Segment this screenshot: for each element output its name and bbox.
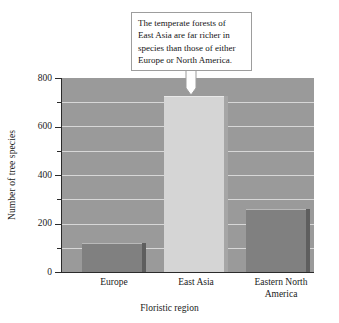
y-tick-label-400: 400 [12, 171, 52, 181]
x-category-label-east-asia: East Asia [164, 277, 228, 289]
bar-east-asia-top-highlight [164, 96, 224, 97]
bar-eastern-north-america-face [246, 209, 306, 272]
y-tick-400 [55, 175, 62, 176]
y-tick-label-600: 600 [12, 122, 52, 132]
bar-eastern-north-america-top-highlight [246, 209, 306, 210]
callout-line-2: East Asia are far richer in [138, 29, 246, 41]
bar-east-asia-face [164, 96, 224, 272]
y-tick-label-200: 200 [12, 219, 52, 229]
y-tick-500 [57, 151, 62, 152]
x-axis-line [61, 272, 314, 273]
x-axis-title: Floristic region [0, 303, 339, 313]
bar-europe [82, 243, 146, 272]
y-tick-0 [55, 272, 62, 273]
callout-line-1: The temperate forests of [138, 17, 246, 29]
bar-eastern-north-america-shadow [306, 209, 310, 272]
x-category-label-eastern-north-america-line2: America [240, 289, 322, 301]
bar-east-asia-shadow [224, 96, 228, 272]
bar-europe-shadow [142, 243, 146, 272]
x-category-label-eastern-north-america: Eastern North America [240, 277, 322, 300]
callout-line-3: species than those of either [138, 42, 246, 54]
y-tick-label-0: 0 [12, 268, 52, 278]
y-tick-100 [57, 248, 62, 249]
bar-eastern-north-america [246, 209, 310, 272]
y-tick-200 [55, 224, 62, 225]
bar-chart-figure: Number of tree species [0, 0, 339, 323]
y-tick-600 [55, 127, 62, 128]
plot-area [62, 78, 314, 272]
callout-annotation: The temperate forests of East Asia are f… [131, 12, 252, 71]
bar-europe-top-highlight [82, 243, 142, 244]
callout-line-4: Europe or North America. [138, 54, 246, 66]
y-tick-label-800: 800 [12, 74, 52, 84]
x-category-label-eastern-north-america-line1: Eastern North [240, 277, 322, 289]
bar-europe-face [82, 243, 142, 272]
bar-east-asia [164, 96, 228, 272]
x-category-label-europe: Europe [82, 277, 146, 289]
y-tick-300 [57, 199, 62, 200]
y-tick-800 [55, 78, 62, 79]
y-tick-700 [57, 102, 62, 103]
